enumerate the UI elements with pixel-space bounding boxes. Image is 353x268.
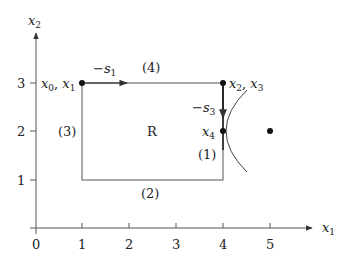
label-step-s3: −s3 xyxy=(192,101,215,114)
edge-label-3: (3) xyxy=(58,125,76,138)
edge-label-2: (2) xyxy=(141,187,159,200)
point-x0-x1 xyxy=(79,80,85,86)
y-ticks xyxy=(30,83,36,180)
diagram-canvas xyxy=(0,0,353,268)
edge-label-1: (1) xyxy=(198,148,216,161)
x-axis-label: x1 xyxy=(322,221,335,234)
x-ticks xyxy=(82,223,270,228)
point-x4 xyxy=(220,128,226,134)
label-step-s1: −s1 xyxy=(93,62,116,75)
label-x0-x1: x0, x1 xyxy=(41,77,75,90)
x-tick-3: 3 xyxy=(172,238,180,251)
y-tick-1: 1 xyxy=(17,174,25,187)
edge-label-4: (4) xyxy=(142,61,160,74)
label-x4: x4 xyxy=(202,125,215,138)
level-set-arc xyxy=(226,90,247,172)
x-tick-4: 4 xyxy=(219,238,227,251)
x-tick-5: 5 xyxy=(266,238,274,251)
point-center xyxy=(267,128,273,134)
y-tick-2: 2 xyxy=(17,125,25,138)
x-tick-2: 2 xyxy=(125,238,133,251)
label-x2-x3: x2, x3 xyxy=(229,77,263,90)
y-axis-label: x2 xyxy=(28,14,41,27)
region-label: R xyxy=(147,125,157,138)
x-tick-1: 1 xyxy=(78,238,86,251)
x-tick-0: 0 xyxy=(32,238,40,251)
y-tick-3: 3 xyxy=(17,77,25,90)
point-x2-x3 xyxy=(220,80,226,86)
